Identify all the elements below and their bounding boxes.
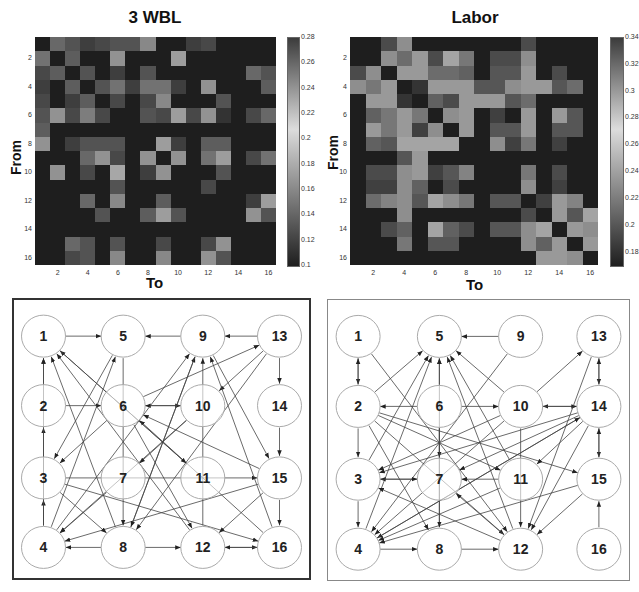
x-tick: 10 (170, 269, 186, 276)
heatmap-cell (201, 94, 216, 108)
heatmap-cell (397, 137, 413, 151)
heatmap-cell (397, 80, 413, 94)
heatmap-cell (459, 237, 475, 251)
colorbar-tick: 0.24 (301, 84, 315, 91)
heatmap-cell (80, 194, 95, 208)
colorbar-labor (610, 37, 624, 267)
heatmap-cell (552, 137, 568, 151)
heatmap-cell (156, 51, 171, 65)
heatmap-cell (231, 37, 246, 51)
heatmap-cell (490, 251, 506, 265)
heatmap-cell (536, 51, 552, 65)
heatmap-cell (474, 123, 490, 137)
heatmap-cell (474, 251, 490, 265)
graph-node: 5 (101, 315, 145, 357)
heatmap-cell (583, 251, 599, 265)
graph-node: 14 (258, 385, 302, 427)
graph-edge (366, 357, 432, 529)
heatmap-cell (536, 80, 552, 94)
heatmap-cell (490, 151, 506, 165)
heatmap-cell (490, 237, 506, 251)
heatmap-cell (35, 66, 50, 80)
heatmap-cell (381, 180, 397, 194)
heatmap-cell (381, 237, 397, 251)
heatmap-cell (412, 51, 428, 65)
heatmap-cell (521, 180, 537, 194)
graph-node-label: 7 (119, 470, 127, 486)
heatmap-cell (350, 94, 366, 108)
colorbar-tick: 0.2 (301, 134, 311, 141)
network-graph-labor: 12345678910111213141516 (327, 299, 630, 581)
heatmap-cell (428, 37, 444, 51)
heatmap-cell (65, 37, 80, 51)
heatmap-cell (443, 137, 459, 151)
heatmap-cell (80, 222, 95, 236)
heatmap-cell (505, 237, 521, 251)
heatmap-cell (140, 151, 155, 165)
heatmap-cell (110, 194, 125, 208)
graph-edge (447, 357, 513, 529)
colorbar-tick: 0.2 (625, 221, 635, 228)
heatmap-cell (140, 194, 155, 208)
colorbar-tick: 0.28 (301, 33, 315, 40)
heatmap-cell (536, 66, 552, 80)
graph-node-label: 11 (195, 470, 210, 486)
heatmap-cell (443, 208, 459, 222)
heatmap-cell (490, 80, 506, 94)
heatmap-cell (261, 51, 276, 65)
heatmap-cell (216, 66, 231, 80)
heatmap-cell (246, 37, 261, 51)
heatmap-cell (459, 94, 475, 108)
graph-node: 2 (336, 385, 380, 427)
x-tick: 14 (230, 269, 246, 276)
heatmap-cell (186, 37, 201, 51)
heatmap-cell (125, 123, 140, 137)
heatmap-cell (110, 180, 125, 194)
heatmap-cell (521, 123, 537, 137)
heatmap-cell (381, 123, 397, 137)
heatmap-cell (80, 237, 95, 251)
heatmap-grid-3wbl (35, 37, 276, 265)
heatmap-cell (171, 151, 186, 165)
heatmap-cell (350, 237, 366, 251)
graph-node: 13 (577, 315, 621, 357)
heatmap-cell (412, 251, 428, 265)
heatmap-cell (231, 94, 246, 108)
graph-node: 7 (417, 458, 461, 500)
heatmap-cell (459, 51, 475, 65)
heatmap-cell (443, 66, 459, 80)
heatmap-cell (443, 180, 459, 194)
heatmap-cell (140, 165, 155, 179)
heatmap-cell (231, 165, 246, 179)
heatmap-cell (505, 151, 521, 165)
heatmap-title-3wbl: 3 WBL (30, 8, 280, 28)
heatmap-cell (521, 37, 537, 51)
graph-node-label: 2 (40, 398, 48, 414)
x-tick: 6 (110, 269, 126, 276)
heatmap-cell (35, 222, 50, 236)
graph-node-label: 1 (354, 328, 362, 344)
heatmap-cell (35, 237, 50, 251)
heatmap-cell (186, 123, 201, 137)
heatmap-cell (261, 94, 276, 108)
heatmap-cell (216, 194, 231, 208)
x-tick: 14 (551, 269, 567, 276)
heatmap-cell (583, 165, 599, 179)
heatmap-cell (366, 94, 382, 108)
graph-edge (219, 351, 263, 391)
heatmap-cell (125, 151, 140, 165)
graph-node-label: 5 (435, 328, 443, 344)
heatmap-title-labor: Labor (350, 8, 600, 28)
graph-node-label: 8 (119, 539, 127, 555)
heatmap-cell (490, 165, 506, 179)
heatmap-cell (397, 108, 413, 122)
heatmap-cell (536, 208, 552, 222)
heatmap-cell (186, 66, 201, 80)
heatmap-cell (474, 222, 490, 236)
heatmap-cell (261, 237, 276, 251)
heatmap-cell (567, 222, 583, 236)
heatmap-cell (140, 208, 155, 222)
heatmap-cell (567, 180, 583, 194)
heatmap-cell (552, 151, 568, 165)
heatmap-cell (552, 80, 568, 94)
